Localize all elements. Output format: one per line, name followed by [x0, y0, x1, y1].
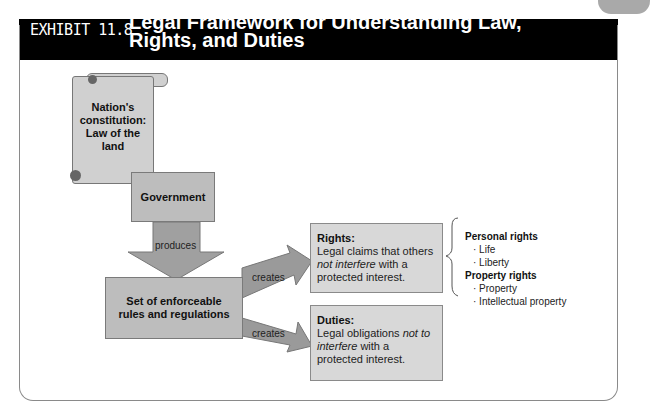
rights-heading: Rights:: [317, 232, 436, 245]
rules-box: Set of enforceable rules and regulations: [105, 277, 243, 339]
list-item: · Life: [465, 243, 566, 256]
creates-bottom-label: creates: [252, 328, 285, 339]
brace-icon: [446, 218, 458, 296]
rights-box: Rights: Legal claims that others not int…: [310, 223, 443, 293]
list-item: · Intellectual property: [465, 295, 566, 308]
rights-text: Legal claims that others: [317, 245, 433, 257]
constitution-scroll: Nation's constitution: Law of the land: [72, 76, 154, 184]
produces-label: produces: [155, 240, 196, 251]
rules-text-1: Set of enforceable: [126, 295, 221, 308]
duties-text: Legal obligations: [317, 327, 403, 339]
government-box: Government: [131, 172, 215, 222]
personal-rights-heading: Personal rights: [465, 230, 566, 243]
constitution-text-4: land: [73, 140, 153, 153]
constitution-text-1: Nation's: [73, 101, 153, 114]
property-rights-heading: Property rights: [465, 269, 566, 282]
rights-italic: not interfere: [317, 258, 376, 270]
constitution-text-2: constitution:: [73, 114, 153, 127]
list-item: · Property: [465, 282, 566, 295]
produces-arrow: [128, 222, 224, 280]
government-label: Government: [141, 191, 206, 203]
rights-types-list: Personal rights · Life · Liberty Propert…: [465, 230, 566, 308]
list-item: · Liberty: [465, 256, 566, 269]
scroll-curl-icon: [88, 75, 97, 84]
duties-heading: Duties:: [317, 314, 436, 327]
scroll-curl-icon: [70, 170, 81, 181]
creates-top-label: creates: [252, 272, 285, 283]
rules-text-2: rules and regulations: [118, 308, 229, 321]
constitution-text-3: Law of the: [73, 127, 153, 140]
duties-box: Duties: Legal obligations not to interfe…: [310, 305, 443, 381]
